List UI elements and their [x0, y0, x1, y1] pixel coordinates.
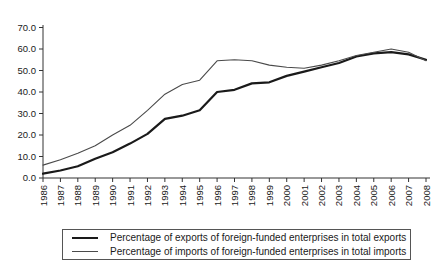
x-axis-tick-label: 2001 — [299, 185, 310, 206]
x-axis-tick-label: 2005 — [368, 185, 379, 206]
chart-legend: Percentage of exports of foreign-funded … — [62, 229, 411, 260]
x-axis-tick-label: 1998 — [246, 185, 257, 206]
y-axis-tick-label: 50.0 — [18, 65, 37, 76]
x-axis-tick-label: 1993 — [159, 185, 170, 206]
imports-line — [43, 49, 426, 165]
exports-legend-label: Percentage of exports of foreign-funded … — [110, 232, 406, 243]
x-axis-tick-label: 2004 — [351, 185, 362, 206]
x-axis-tick-label: 2006 — [386, 185, 397, 206]
x-axis-tick-label: 2000 — [281, 185, 292, 206]
x-axis-tick-label: 1986 — [38, 185, 49, 206]
x-axis-tick-label: 1996 — [212, 185, 223, 206]
y-axis-tick-label: 40.0 — [18, 86, 37, 97]
x-axis-tick-label: 1994 — [177, 185, 188, 206]
x-axis-tick-label: 1990 — [107, 185, 118, 206]
x-axis-tick-label: 1988 — [72, 185, 83, 206]
x-axis-tick-label: 2008 — [421, 185, 432, 206]
x-axis-tick-label: 2002 — [316, 185, 327, 206]
x-axis-tick-label: 1989 — [90, 185, 101, 206]
y-axis-tick-label: 0.0 — [23, 172, 36, 183]
exports-line-swatch — [72, 237, 98, 239]
line-chart-plot: 0.010.020.030.040.050.060.070.0198619871… — [0, 0, 446, 228]
x-axis-tick-label: 1995 — [194, 185, 205, 206]
chart-figure: 0.010.020.030.040.050.060.070.0198619871… — [0, 0, 446, 279]
x-axis-tick-label: 2007 — [403, 185, 414, 206]
x-axis-tick-label: 1999 — [264, 185, 275, 206]
x-axis-tick-label: 1987 — [55, 185, 66, 206]
y-axis-tick-label: 20.0 — [18, 129, 37, 140]
imports-line-swatch — [72, 251, 98, 252]
imports-legend-label: Percentage of imports of foreign-funded … — [110, 246, 406, 257]
x-axis-tick-label: 2003 — [333, 185, 344, 206]
x-axis-tick-label: 1997 — [229, 185, 240, 206]
y-axis-tick-label: 10.0 — [18, 151, 37, 162]
y-axis-tick-label: 60.0 — [18, 43, 37, 54]
legend-row-imports: Percentage of imports of foreign-funded … — [63, 246, 410, 258]
x-axis-tick-label: 1991 — [125, 185, 136, 206]
exports-line — [43, 52, 426, 174]
y-axis-tick-label: 30.0 — [18, 108, 37, 119]
x-axis-tick-label: 1992 — [142, 185, 153, 206]
y-axis-tick-label: 70.0 — [18, 22, 37, 33]
legend-row-exports: Percentage of exports of foreign-funded … — [63, 232, 410, 244]
